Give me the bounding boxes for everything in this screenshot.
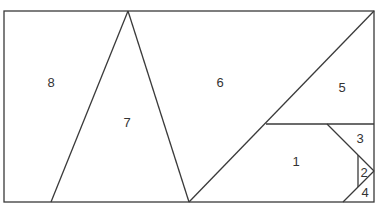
edge-8-7 bbox=[51, 11, 128, 202]
edge-1-3 bbox=[327, 124, 358, 155]
piece-label-1: 1 bbox=[292, 154, 299, 169]
piece-label-4: 4 bbox=[361, 185, 368, 200]
edge-diagonal bbox=[189, 11, 374, 202]
piece-label-3: 3 bbox=[356, 131, 363, 146]
piece-label-6: 6 bbox=[216, 75, 223, 90]
piece-label-2: 2 bbox=[360, 165, 367, 180]
piece-label-5: 5 bbox=[338, 80, 345, 95]
dissection-diagram: 1 2 3 4 5 6 7 8 bbox=[0, 0, 376, 220]
edge-7-6 bbox=[128, 11, 189, 202]
piece-label-7: 7 bbox=[123, 115, 130, 130]
piece-label-8: 8 bbox=[47, 75, 54, 90]
outer-rectangle bbox=[4, 11, 374, 202]
